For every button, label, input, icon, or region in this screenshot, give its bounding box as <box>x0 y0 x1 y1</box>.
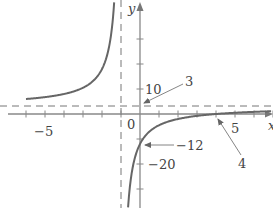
callout-label-y-intercept: −12 <box>176 138 203 153</box>
curve-left-branch <box>26 2 114 99</box>
x-axis-label: x <box>268 118 273 133</box>
y-axis-label: y <box>127 1 136 16</box>
y-tick-label-neg20: −20 <box>148 157 175 172</box>
function-graph: y x 0 −5 5 10 −20 3 −12 4 <box>0 0 273 208</box>
y-tick-label-10: 10 <box>145 82 162 97</box>
x-tick-label-pos5: 5 <box>231 121 239 136</box>
y-axis-arrow-icon <box>137 2 144 11</box>
x-tick-label-neg5: −5 <box>34 124 53 139</box>
callout-label-asymptote: 3 <box>185 74 193 89</box>
callout-label-x-intercept: 4 <box>238 156 246 171</box>
origin-label: 0 <box>127 117 135 132</box>
